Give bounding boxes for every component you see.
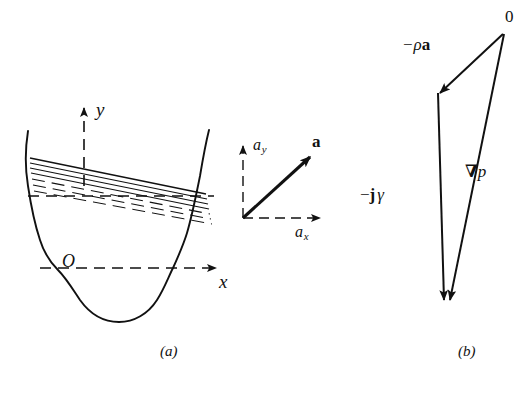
x-axis-label: x: [219, 272, 227, 291]
apex-label: 0: [505, 8, 514, 25]
grad-p-suffix: p: [478, 162, 487, 181]
origin-label: O: [62, 252, 75, 270]
minus-j-gamma-vector: [438, 93, 444, 300]
acceleration-vector-label: a: [312, 133, 321, 150]
figure-root: y x O a ay ax (a) 0: [0, 0, 532, 396]
minus-rho-a-prefix: −ρ: [402, 35, 422, 54]
panel-a: y x O a ay ax (a): [0, 0, 340, 396]
panel-b: 0 −ρa −jγ ∇p (b): [340, 0, 532, 396]
minus-j-gamma-prefix: −: [360, 185, 370, 204]
panel-b-caption: (b): [458, 344, 476, 359]
minus-j-gamma-bold: j: [370, 185, 376, 204]
minus-j-gamma-label: −jγ: [360, 186, 384, 203]
tilted-isobar-lines: [30, 158, 212, 224]
acceleration-vector-diagram: [243, 146, 320, 218]
panel-a-graphics: [0, 0, 340, 396]
grad-p-nabla: ∇: [465, 162, 478, 181]
grad-p-label: ∇p: [465, 163, 486, 180]
ay-component-label: ay: [253, 137, 266, 155]
resultant-acceleration-vector: [243, 157, 310, 218]
minus-rho-a-bold: a: [422, 35, 431, 54]
minus-rho-a-label: −ρa: [402, 36, 430, 53]
ax-base: a: [295, 223, 303, 240]
y-axis-label: y: [96, 100, 104, 119]
ay-subscript: y: [262, 143, 267, 155]
minus-j-gamma-suffix: γ: [377, 185, 384, 204]
ax-subscript: x: [304, 230, 309, 242]
ax-component-label: ax: [295, 224, 308, 242]
ay-base: a: [253, 136, 261, 153]
vessel-outline: [26, 130, 209, 322]
panel-a-caption: (a): [160, 344, 178, 359]
